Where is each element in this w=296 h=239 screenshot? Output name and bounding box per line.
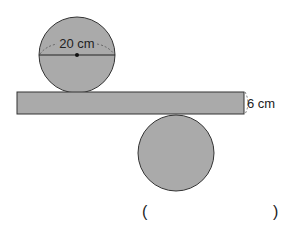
center-dot (75, 53, 79, 57)
answer-open-paren: ( (142, 203, 147, 221)
thickness-label: 6 cm (247, 96, 275, 111)
figure: 20 cm 6 cm (0, 0, 296, 239)
bar (17, 92, 244, 114)
answer-close-paren: ) (273, 203, 278, 221)
bottom-circle (138, 115, 214, 191)
diameter-label: 20 cm (59, 36, 94, 51)
